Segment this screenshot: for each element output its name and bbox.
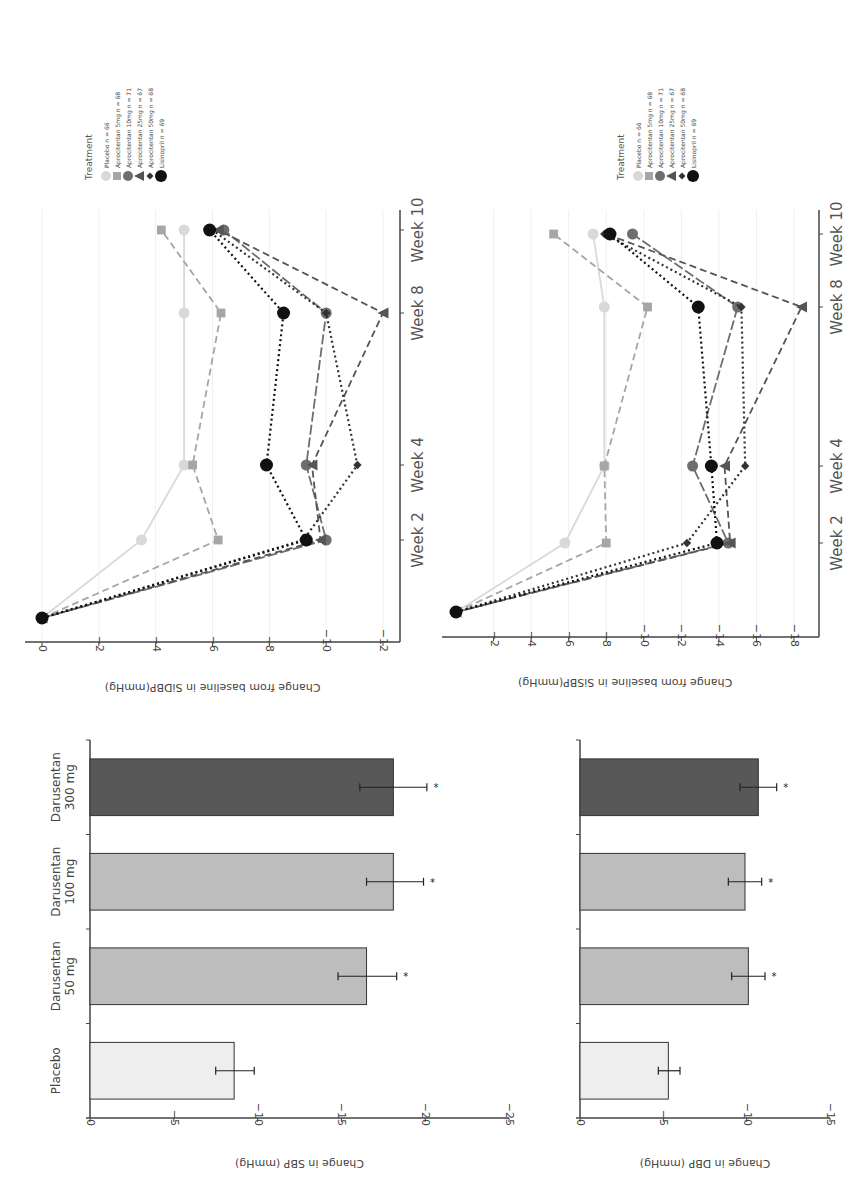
value-tick-label: −5 [168,1110,181,1126]
data-marker [679,173,686,180]
significance-marker: * [783,782,788,793]
sisbp-plot: −2−4−6−8−10−12−14−16−18Change from basel… [434,0,868,700]
data-marker [687,461,698,472]
value-tick-label: −10 [638,624,651,647]
sbp-bar-chart: 0−5−10−15−20−25Change in SBP (mmHg)Place… [0,700,540,1186]
value-axis-title: Change in DBP (mmHg) [640,1157,771,1170]
significance-marker: * [430,877,435,888]
data-marker [277,307,290,320]
data-marker [188,461,197,470]
data-marker [155,170,167,182]
data-marker [260,459,273,472]
legend-title: Treatment [616,134,626,181]
data-marker [179,225,190,236]
bar-group: *Darusentan100 mg [49,847,435,917]
data-marker [101,171,111,181]
bar [580,759,758,816]
value-tick-label: −15 [824,1103,837,1126]
value-tick-label: −4 [150,636,163,652]
value-tick-label: −12 [675,624,688,647]
legend-item-label: Placebo n = 66 [103,122,110,168]
sisbp-line-chart: −2−4−6−8−10−12−14−16−18Change from basel… [434,0,868,700]
data-marker [136,535,147,546]
significance-marker: * [433,782,438,793]
data-marker [549,230,558,239]
bar [580,1042,668,1099]
value-tick-label: −15 [335,1103,348,1126]
significance-marker: * [768,877,773,888]
value-tick-label: −6 [207,636,220,652]
data-marker [123,171,133,181]
data-marker [214,536,223,545]
series [36,224,313,625]
dbp-bar-chart: 0−5−10−15Change in DBP (mmHg)*** [540,700,868,1186]
significance-marker: * [403,971,408,982]
legend-item-label: Lisinopril n = 69 [690,119,698,168]
data-marker [315,535,326,546]
bar [580,853,745,910]
week-tick-label: Week 4 [828,438,846,493]
bar-group: * [580,853,773,910]
value-tick-label: −8 [263,636,276,652]
value-tick-label: −6 [563,631,576,647]
value-tick-label: −2 [488,631,501,647]
data-marker [645,172,653,180]
legend-item-label: Aprocitentan 25mg n = 67 [136,88,144,168]
data-marker [134,171,144,181]
series [38,226,226,623]
value-tick-label: −10 [320,629,333,652]
category-label: 100 mg [63,859,77,905]
bar [90,759,393,816]
value-tick-label: 0 [36,645,49,652]
dbp-plot: 0−5−10−15Change in DBP (mmHg)*** [540,700,868,1186]
legend-title: Treatment [84,134,94,181]
data-marker [203,224,216,237]
data-marker [300,534,313,547]
value-axis-title: Change from baseline in SiSBP(mmHg) [518,676,732,689]
category-label: Darusentan [49,941,63,1011]
bar-group [580,1042,680,1099]
data-marker [147,173,154,180]
value-tick-label: 0 [84,1119,97,1126]
legend-item-label: Aprocitentan 10mg n = 71 [657,88,665,168]
bar [90,853,393,910]
legend-item-label: Aprocitentan 50mg n = 68 [679,88,687,168]
value-tick-label: −2 [93,636,106,652]
data-marker [687,170,699,182]
significance-marker: * [772,971,777,982]
value-tick-label: −10 [741,1103,754,1126]
value-tick-label: −14 [713,624,726,647]
category-label: 300 mg [63,764,77,810]
week-tick-label: Week 2 [409,512,427,567]
legend-item-label: Aprocitentan 25mg n = 67 [668,88,676,168]
data-marker [179,460,190,471]
data-marker [603,228,616,241]
value-tick-label: −16 [750,624,763,647]
legend-item-label: Aprocitentan 50mg n = 68 [147,88,155,168]
category-label: Placebo [49,1047,63,1094]
value-tick-label: −10 [252,1103,265,1126]
category-label: 50 mg [63,957,77,995]
legend-item-label: Aprocitentan 5mg n = 68 [114,92,122,168]
data-marker [633,171,643,181]
week-tick-label: Week 10 [828,202,846,267]
data-marker [627,229,638,240]
data-marker [113,172,121,180]
legend: TreatmentPlacebo n = 66Aprocitentan 5mg … [616,88,699,182]
bar-group: *Darusentan50 mg [49,941,408,1011]
data-marker [559,538,570,549]
data-marker [599,302,610,313]
data-marker [705,460,718,473]
data-marker [179,308,190,319]
data-marker [450,606,463,619]
value-tick-label: −5 [657,1110,670,1126]
sbp-plot: 0−5−10−15−20−25Change in SBP (mmHg)Place… [0,700,540,1186]
data-marker [711,537,724,550]
data-marker [741,462,749,470]
week-tick-label: Week 8 [828,279,846,334]
series [451,229,808,618]
value-tick-label: −18 [788,624,801,647]
value-axis-title: Change in SBP (mmHg) [235,1157,364,1170]
value-tick-label: −25 [503,1103,516,1126]
legend-item-label: Lisinopril n = 69 [158,119,166,168]
